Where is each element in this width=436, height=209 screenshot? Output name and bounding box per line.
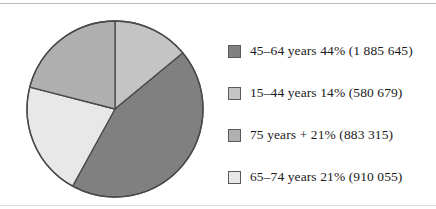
pie-chart-figure: 45–64 years 44% (1 885 645) 15–44 years …: [0, 0, 436, 209]
legend-swatch-icon-75-plus: [228, 129, 241, 142]
legend-label-15-44: 15–44 years 14% (580 679): [250, 85, 402, 101]
legend-swatch-icon-15-44: [228, 87, 241, 100]
legend-label-65-74: 65–74 years 21% (910 055): [250, 169, 402, 185]
legend-item-15-44[interactable]: 15–44 years 14% (580 679): [228, 72, 436, 114]
top-divider-rule: [0, 3, 436, 4]
legend-label-45-64: 45–64 years 44% (1 885 645): [250, 43, 413, 59]
bottom-divider-rule: [0, 205, 436, 206]
legend-label-75-plus: 75 years + 21% (883 315): [250, 127, 393, 143]
legend-swatch-icon-65-74: [228, 171, 241, 184]
chart-legend: 45–64 years 44% (1 885 645) 15–44 years …: [228, 30, 436, 198]
legend-item-75-plus[interactable]: 75 years + 21% (883 315): [228, 114, 436, 156]
pie-slice-group: [27, 21, 203, 197]
pie-chart-graphic: [24, 18, 206, 200]
legend-item-65-74[interactable]: 65–74 years 21% (910 055): [228, 156, 436, 198]
legend-swatch-icon-45-64: [228, 45, 241, 58]
pie-svg: [24, 18, 206, 200]
legend-item-45-64[interactable]: 45–64 years 44% (1 885 645): [228, 30, 436, 72]
